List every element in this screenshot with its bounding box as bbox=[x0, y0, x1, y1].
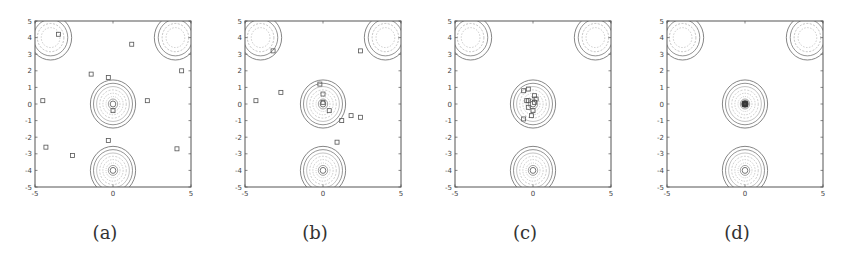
x-tick-label: -5 bbox=[242, 190, 249, 198]
axes-box bbox=[35, 21, 191, 187]
x-tick-label: 5 bbox=[399, 190, 403, 198]
particle-marker bbox=[180, 69, 184, 73]
contour-ring bbox=[320, 167, 326, 173]
contour-ring bbox=[251, 28, 270, 48]
contour-ring bbox=[586, 28, 605, 48]
particle-marker bbox=[254, 99, 258, 103]
particle-marker bbox=[271, 49, 275, 53]
y-tick-label: 2 bbox=[660, 67, 664, 75]
particle-marker bbox=[44, 145, 48, 149]
panel-d: 543210-1-2-3-4-5-505 (d) bbox=[632, 0, 842, 261]
y-tick-label: 3 bbox=[28, 51, 32, 59]
panel-b: 543210-1-2-3-4-5-505 (b) bbox=[210, 0, 420, 261]
panel-caption-b: (b) bbox=[210, 222, 420, 243]
contour-ring bbox=[368, 19, 402, 56]
y-tick-label: 5 bbox=[238, 18, 242, 26]
contour-ring bbox=[100, 90, 127, 118]
y-tick-label: -1 bbox=[657, 117, 664, 125]
particle-marker bbox=[175, 147, 179, 151]
y-tick-label: 4 bbox=[660, 34, 665, 42]
panel-c: 543210-1-2-3-4-5-505 (c) bbox=[420, 0, 630, 261]
particle-marker bbox=[358, 49, 362, 53]
contour-ring bbox=[578, 19, 612, 56]
contour-ring bbox=[453, 19, 487, 56]
contour-ring bbox=[665, 19, 699, 56]
contour-ring bbox=[520, 156, 547, 184]
y-tick-label: -4 bbox=[657, 167, 665, 175]
y-tick-label: 2 bbox=[448, 67, 452, 75]
particle-marker bbox=[335, 140, 339, 144]
x-tick-label: 0 bbox=[111, 190, 115, 198]
contour-ring bbox=[318, 165, 327, 175]
y-tick-label: 2 bbox=[238, 67, 242, 75]
y-tick-label: 1 bbox=[448, 84, 452, 92]
y-tick-label: -4 bbox=[445, 167, 453, 175]
contour-ring bbox=[94, 83, 133, 125]
contour-ring bbox=[729, 153, 762, 188]
plot-c: 543210-1-2-3-4-5-505 bbox=[420, 0, 630, 220]
x-tick-label: 5 bbox=[609, 190, 613, 198]
x-tick-label: -5 bbox=[32, 190, 39, 198]
y-tick-label: 3 bbox=[660, 51, 664, 59]
y-tick-label: -1 bbox=[445, 117, 452, 125]
contour-ring bbox=[528, 165, 537, 175]
y-tick-label: 4 bbox=[28, 34, 33, 42]
y-tick-label: 0 bbox=[28, 101, 32, 109]
y-tick-label: -2 bbox=[445, 134, 452, 142]
y-tick-label: 4 bbox=[448, 34, 453, 42]
y-tick-label: -3 bbox=[657, 150, 664, 158]
y-tick-label: 5 bbox=[660, 18, 664, 26]
plot-a: 543210-1-2-3-4-5-505 bbox=[0, 0, 210, 220]
particle-marker bbox=[89, 72, 93, 76]
y-tick-label: -4 bbox=[235, 167, 243, 175]
panel-caption-a: (a) bbox=[0, 222, 210, 243]
contour-ring bbox=[742, 167, 748, 173]
contour-ring bbox=[790, 19, 824, 56]
contour-ring bbox=[108, 165, 117, 175]
particle-marker bbox=[145, 99, 149, 103]
particle-marker bbox=[70, 153, 74, 157]
x-tick-label: 5 bbox=[821, 190, 825, 198]
y-tick-label: -3 bbox=[25, 150, 32, 158]
contour-ring bbox=[41, 28, 60, 48]
plot-d: 543210-1-2-3-4-5-505 bbox=[632, 0, 842, 220]
y-tick-label: 1 bbox=[238, 84, 242, 92]
y-tick-label: 0 bbox=[238, 101, 242, 109]
x-tick-label: 0 bbox=[743, 190, 747, 198]
x-tick-label: 0 bbox=[531, 190, 535, 198]
contour-layer bbox=[240, 15, 407, 194]
contour-ring bbox=[740, 165, 749, 175]
contour-ring bbox=[517, 153, 550, 188]
contour-ring bbox=[530, 167, 536, 173]
contour-ring bbox=[33, 19, 67, 56]
y-tick-label: -1 bbox=[235, 117, 242, 125]
contour-ring bbox=[108, 99, 117, 109]
contour-ring bbox=[110, 167, 116, 173]
particle-marker bbox=[279, 90, 283, 94]
x-tick-label: -5 bbox=[452, 190, 459, 198]
contour-ring bbox=[310, 156, 337, 184]
contour-ring bbox=[110, 101, 116, 107]
y-tick-label: -2 bbox=[235, 134, 242, 142]
contour-ring bbox=[97, 87, 130, 122]
contour-ring bbox=[307, 153, 340, 188]
y-tick-label: 0 bbox=[448, 101, 452, 109]
contour-ring bbox=[97, 153, 130, 188]
y-tick-label: -1 bbox=[25, 117, 32, 125]
x-tick-label: 0 bbox=[321, 190, 325, 198]
y-tick-label: 5 bbox=[448, 18, 452, 26]
particle-marker bbox=[321, 92, 325, 96]
contour-ring bbox=[461, 28, 480, 48]
contour-ring bbox=[158, 19, 192, 56]
particle-marker bbox=[130, 42, 134, 46]
contour-ring bbox=[376, 28, 395, 48]
y-tick-label: 1 bbox=[28, 84, 32, 92]
y-tick-label: 1 bbox=[660, 84, 664, 92]
particle-marker bbox=[358, 115, 362, 119]
panel-caption-d: (d) bbox=[632, 222, 842, 243]
y-tick-label: -2 bbox=[657, 134, 664, 142]
y-tick-label: 3 bbox=[238, 51, 242, 59]
contour-ring bbox=[673, 28, 692, 48]
contour-ring bbox=[100, 156, 127, 184]
particle-marker bbox=[327, 109, 331, 113]
